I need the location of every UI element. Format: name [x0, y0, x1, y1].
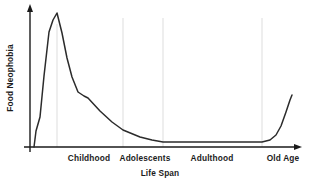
- y-axis-title: Food Neophobia: [5, 44, 15, 112]
- chart-canvas: Childhood Adolescents Adulthood Old Age …: [0, 0, 312, 184]
- tick-label-adulthood: Adulthood: [191, 153, 234, 163]
- y-axis-arrowhead: [27, 4, 33, 12]
- x-axis-title: Life Span: [141, 168, 180, 178]
- tick-label-old-age: Old Age: [267, 153, 300, 163]
- tick-label-childhood: Childhood: [68, 153, 110, 163]
- gridlines-group: [57, 18, 262, 147]
- x-axis-arrowhead: [294, 144, 302, 150]
- y-axis: [27, 4, 33, 152]
- tick-label-adolescents: Adolescents: [120, 153, 171, 163]
- food-neophobia-chart: Childhood Adolescents Adulthood Old Age …: [0, 0, 312, 184]
